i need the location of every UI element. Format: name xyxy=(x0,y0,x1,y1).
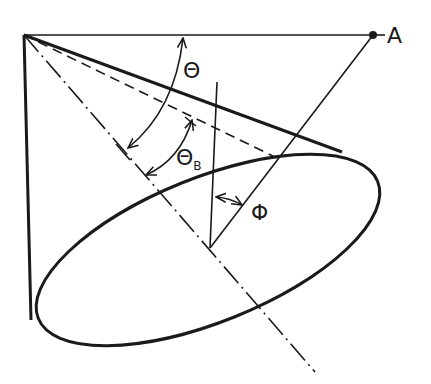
theta-tick xyxy=(116,144,130,160)
dashed-line xyxy=(24,35,277,158)
theta-b-label: ΘB xyxy=(176,145,202,173)
vertical-normal-line xyxy=(210,82,217,248)
cone-base-ellipse xyxy=(11,115,404,384)
cone-top-edge xyxy=(24,35,342,152)
phi-arc xyxy=(216,197,242,205)
cone-diagram: A Θ ΘB Φ xyxy=(0,0,431,384)
theta-arc xyxy=(128,38,183,148)
theta-label: Θ xyxy=(183,58,200,83)
cone-axis-dashdot xyxy=(24,35,315,372)
line-to-point-a xyxy=(210,35,373,248)
phi-label: Φ xyxy=(251,200,268,225)
point-a-label: A xyxy=(387,23,402,48)
cone-left-edge xyxy=(24,35,31,320)
